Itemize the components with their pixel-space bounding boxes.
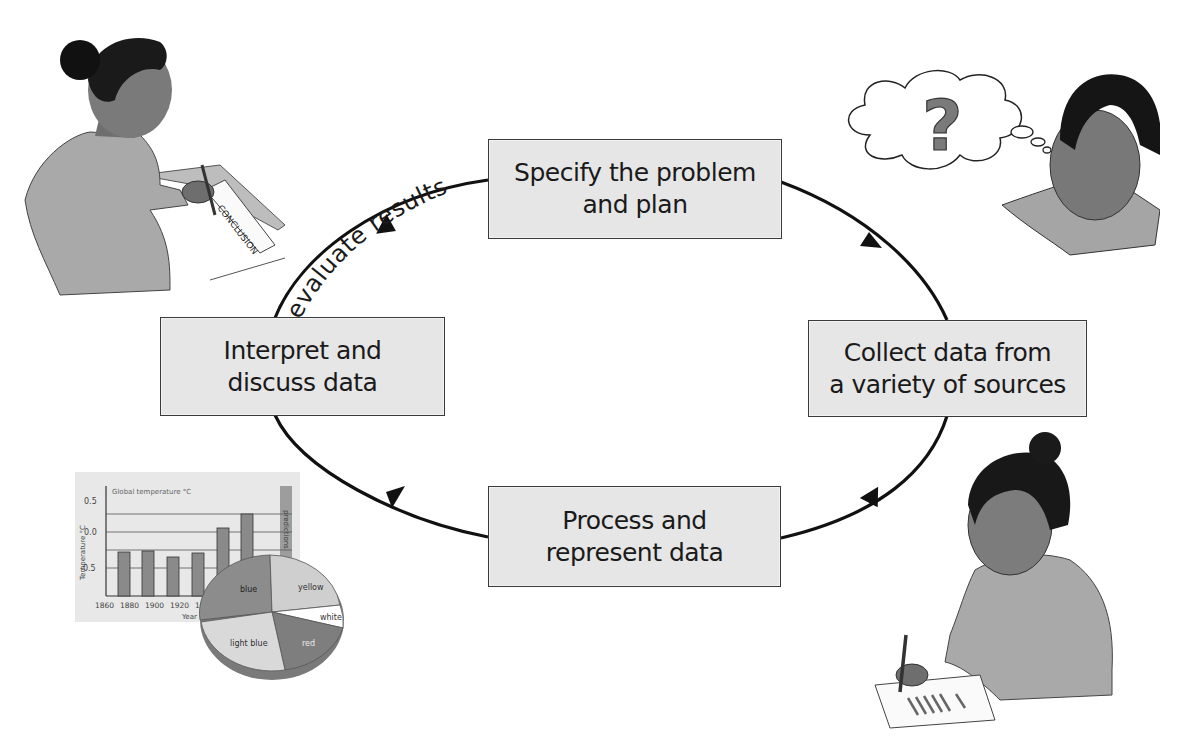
x-tick: 1860 bbox=[95, 601, 114, 610]
y-axis-label: Temperature °C bbox=[79, 525, 87, 581]
stage-interpret-line2: discuss data bbox=[224, 367, 382, 399]
stage-collect-line2: a variety of sources bbox=[829, 369, 1066, 401]
stage-interpret: Interpret and discuss data bbox=[160, 317, 445, 416]
stage-specify-line2: and plan bbox=[514, 189, 756, 221]
x-axis-label: Year bbox=[181, 613, 197, 621]
stage-collect: Collect data from a variety of sources bbox=[808, 320, 1087, 417]
pie-label-red: red bbox=[302, 639, 315, 648]
stage-process-line1: Process and bbox=[546, 505, 723, 537]
stage-collect-line1: Collect data from bbox=[829, 337, 1066, 369]
pie-label-blue: blue bbox=[240, 585, 257, 594]
student-taking-notes-illustration bbox=[850, 430, 1130, 730]
student-writing-conclusion-illustration: CONCLUSION bbox=[20, 20, 320, 310]
student-thinking-illustration: ? bbox=[830, 50, 1160, 260]
stage-process: Process and represent data bbox=[488, 486, 781, 587]
pie-label-white: white bbox=[320, 613, 342, 622]
pie-label-light-blue: light blue bbox=[230, 639, 268, 648]
stage-specify: Specify the problem and plan bbox=[488, 139, 782, 239]
question-mark-icon: ? bbox=[922, 85, 963, 167]
charts-illustration: predictions 0.5 0.0 -0.5 Temperature °C … bbox=[70, 470, 360, 700]
research-cycle-diagram: evaluate results Specify the problem and… bbox=[0, 0, 1189, 737]
stage-interpret-line1: Interpret and bbox=[224, 335, 382, 367]
y-tick: 0.5 bbox=[84, 497, 97, 506]
x-tick: 1880 bbox=[120, 601, 139, 610]
x-tick: 1920 bbox=[170, 601, 189, 610]
stage-process-line2: represent data bbox=[546, 537, 723, 569]
predictions-label: predictions bbox=[282, 510, 290, 549]
stage-specify-line1: Specify the problem bbox=[514, 157, 756, 189]
x-tick: 1900 bbox=[145, 601, 164, 610]
chart-title: Global temperature °C bbox=[112, 488, 191, 496]
pie-label-yellow: yellow bbox=[298, 583, 324, 592]
